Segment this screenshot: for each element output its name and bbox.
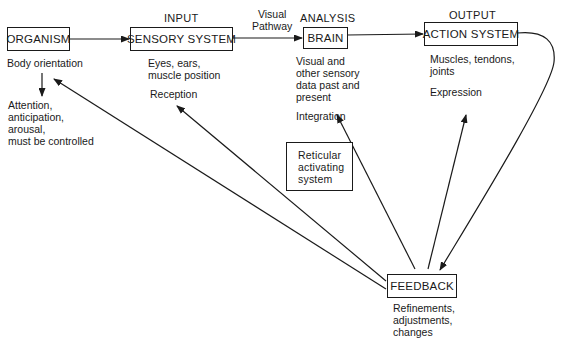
- visual-pathway-label: Visual Pathway: [252, 8, 292, 32]
- expression-label: Expression: [430, 86, 482, 98]
- arrow-brain-to-action: [347, 34, 423, 35]
- integration-label: Integration: [296, 110, 346, 122]
- brain-label: BRAIN: [307, 32, 343, 44]
- analysis-stage-label: ANALYSIS: [300, 12, 355, 24]
- reticular-activating-system-box: Reticular activating system: [286, 142, 353, 191]
- sensory-system-box: SENSORY SYSTEM: [130, 27, 233, 51]
- organism-label: ORGANISM: [6, 33, 70, 45]
- reticular-label: Reticular activating system: [298, 149, 344, 185]
- sensory-caption: Eyes, ears, muscle position: [148, 57, 220, 81]
- input-stage-label: INPUT: [164, 12, 199, 24]
- feedback-label: FEEDBACK: [390, 280, 454, 292]
- arrow-feedback-to-brain: [337, 115, 415, 269]
- connector-lines: [0, 0, 561, 344]
- brain-box: BRAIN: [303, 27, 348, 49]
- organism-caption: Body orientation: [7, 57, 83, 69]
- organism-box: ORGANISM: [7, 27, 70, 51]
- action-system-box: ACTION SYSTEM: [424, 22, 518, 46]
- action-caption: Muscles, tendons, joints: [430, 53, 515, 77]
- arrow-feedback-to-sensory: [177, 106, 386, 281]
- feedback-box: FEEDBACK: [387, 274, 457, 298]
- sensory-system-label: SENSORY SYSTEM: [127, 33, 236, 45]
- reception-label: Reception: [150, 88, 197, 100]
- arrow-feedback-to-action: [428, 115, 466, 269]
- brain-caption: Visual and other sensory data past and p…: [296, 55, 360, 103]
- action-system-label: ACTION SYSTEM: [423, 28, 520, 40]
- feedback-caption: Refinements, adjustments, changes: [393, 302, 455, 338]
- output-stage-label: OUTPUT: [449, 9, 496, 21]
- organism-note: Attention, anticipation, arousal, must b…: [8, 99, 94, 147]
